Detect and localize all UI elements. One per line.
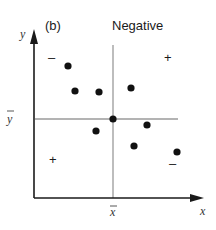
sign-top-left: – bbox=[48, 50, 56, 65]
y-axis-label: y bbox=[19, 27, 26, 41]
data-points bbox=[64, 62, 180, 155]
chart-title: Negative bbox=[112, 18, 163, 33]
svg-text:x: x bbox=[109, 205, 116, 219]
scatter-diagram: (b) Negative y x y x – + + – bbox=[0, 0, 216, 230]
data-point bbox=[71, 87, 78, 94]
y-mean-label: y bbox=[6, 111, 14, 126]
svg-text:y: y bbox=[6, 112, 13, 126]
x-mean-label: x bbox=[109, 205, 117, 219]
data-point bbox=[64, 62, 71, 69]
data-point bbox=[109, 115, 116, 122]
data-point bbox=[130, 142, 137, 149]
x-axis-label: x bbox=[199, 204, 206, 218]
x-axis-arrow-icon bbox=[190, 194, 204, 202]
data-point bbox=[95, 88, 102, 95]
data-point bbox=[143, 121, 150, 128]
data-point bbox=[92, 127, 99, 134]
sign-bottom-right: – bbox=[169, 156, 177, 171]
panel-label: (b) bbox=[45, 18, 61, 33]
y-axis-arrow-icon bbox=[30, 29, 38, 44]
sign-bottom-left: + bbox=[49, 152, 57, 167]
data-point bbox=[173, 148, 180, 155]
data-point bbox=[127, 84, 134, 91]
sign-top-right: + bbox=[164, 50, 172, 65]
